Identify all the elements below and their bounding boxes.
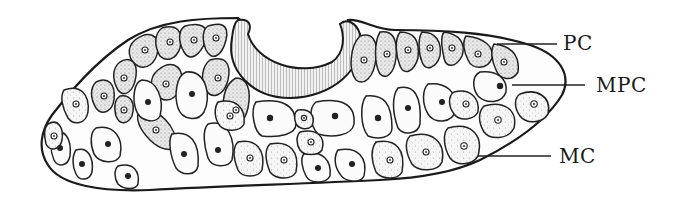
label-pc: PC bbox=[563, 33, 593, 53]
label-mpc: MPC bbox=[596, 75, 647, 95]
label-mc: MC bbox=[559, 146, 596, 166]
